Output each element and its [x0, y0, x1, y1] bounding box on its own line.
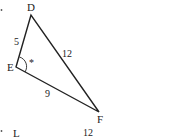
bullet-dot-2 — [1, 130, 3, 132]
side-label-de: 5 — [14, 36, 19, 47]
vertex-label-d: D — [27, 1, 35, 13]
angle-marker-e: * — [29, 57, 34, 68]
side-label-next: 12 — [83, 127, 93, 137]
triangle-diagram: D E F 5 12 9 * L 12 — [0, 0, 170, 137]
vertex-label-f: F — [97, 113, 103, 125]
side-label-ef: 9 — [45, 88, 50, 99]
side-label-df: 12 — [62, 48, 72, 59]
vertex-label-l: L — [13, 127, 20, 137]
vertex-label-e: E — [7, 61, 14, 73]
bullet-dot — [1, 9, 3, 11]
